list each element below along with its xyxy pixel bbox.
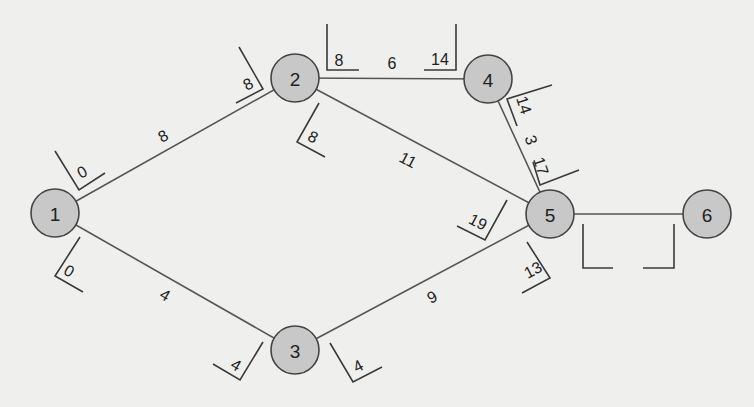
- time-value: 8: [240, 74, 256, 93]
- time-value: 17: [530, 155, 552, 177]
- edge-3-5: [295, 214, 550, 350]
- time-value: 8: [305, 127, 321, 146]
- time-value: 4: [350, 356, 366, 375]
- edge-2-5: [295, 78, 550, 214]
- time-box-5-6-start: [583, 224, 613, 268]
- time-box-2-4-finish: 14: [424, 24, 456, 70]
- diagram-canvas: 08048148191417413 8461193 123456: [0, 0, 754, 407]
- node-6: 6: [683, 190, 731, 238]
- bracket-shape: [236, 47, 263, 103]
- edge-1-3: [55, 213, 295, 350]
- time-box-2-5-start: 8: [297, 103, 325, 157]
- time-value: 14: [431, 51, 449, 68]
- node-label: 4: [483, 70, 494, 91]
- time-value: 8: [335, 52, 344, 69]
- time-value: 0: [74, 162, 90, 181]
- time-box-4-5-finish: 17: [530, 155, 579, 185]
- edge-duration-label: 3: [522, 133, 541, 147]
- time-box-1-2-start: 0: [55, 151, 105, 190]
- node-label: 6: [702, 205, 713, 226]
- time-box-3-5-finish: 13: [521, 242, 550, 293]
- node-label: 5: [545, 205, 556, 226]
- network-diagram: 08048148191417413 8461193 123456: [0, 0, 754, 407]
- node-3: 3: [271, 326, 319, 374]
- time-box-1-3-finish: 4: [213, 342, 263, 380]
- time-box-2-5-finish: 19: [457, 200, 507, 240]
- time-box-1-2-finish: 8: [236, 47, 263, 103]
- edge-duration-label: 11: [397, 149, 420, 172]
- edge-2-4: [295, 78, 488, 79]
- time-box-5-6-finish: [643, 224, 674, 268]
- time-value: 14: [513, 94, 535, 116]
- time-box-4-5-start: 14: [507, 85, 552, 126]
- time-value: 13: [521, 258, 545, 281]
- bracket-shape: [583, 224, 613, 268]
- node-label: 1: [50, 204, 61, 225]
- time-value: 19: [466, 210, 490, 233]
- node-label: 2: [290, 69, 301, 90]
- time-box-2-4-start: 8: [327, 24, 359, 70]
- node-label: 3: [290, 341, 301, 362]
- node-2: 2: [271, 54, 319, 102]
- edge-duration-label: 8: [155, 126, 171, 145]
- bracket-shape: [643, 224, 674, 268]
- node-5: 5: [526, 190, 574, 238]
- node-4: 4: [464, 55, 512, 103]
- edges-layer: [55, 78, 707, 350]
- edge-duration-label: 4: [157, 285, 173, 304]
- edge-1-2: [55, 78, 295, 213]
- node-1: 1: [31, 189, 79, 237]
- edge-duration-label: 6: [388, 55, 397, 72]
- time-value: 4: [228, 355, 244, 374]
- edge-duration-label: 9: [424, 287, 440, 306]
- time-box-1-3-start: 0: [55, 237, 83, 292]
- time-box-3-5-start: 4: [330, 343, 382, 382]
